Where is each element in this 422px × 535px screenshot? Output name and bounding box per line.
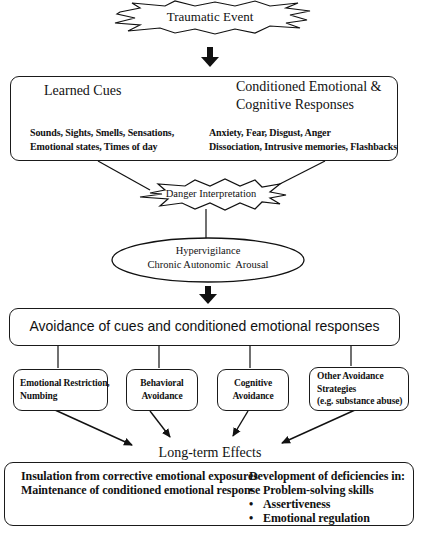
thick-arrow-2 [199,286,217,304]
danger-interpretation-label: Danger Interpretation [158,188,264,199]
learned-cues-examples-1: Sounds, Sights, Smells, Sensations, [30,127,174,138]
learned-cues-examples-2: Emotional states, Times of day [30,141,157,152]
effects-left-line2: Maintenance of conditioned emotional res… [21,483,260,498]
responses-title-2: Cognitive Responses [236,97,354,113]
strategy-1-line2: Numbing [20,391,57,401]
strategy-1-line1: Emotional Restriction, [20,378,110,388]
effects-left-line1: Insulation from corrective emotional exp… [21,469,258,484]
strategy-4-line3: (e.g. substance abuse) [317,396,402,406]
responses-examples-1: Anxiety, Fear, Disgust, Anger [209,127,331,138]
learned-cues-title: Learned Cues [44,83,121,99]
thick-arrow-1 [201,47,219,67]
strategy-box-behavioral-avoidance [126,369,198,411]
strategy-3-line2: Avoidance [217,391,289,401]
responses-title-1: Conditioned Emotional & [236,79,381,95]
long-term-effects-title: Long-term Effects [130,445,290,461]
responses-examples-2: Dissociation, Intrusive memories, Flashb… [209,141,397,152]
avoidance-label: Avoidance of cues and conditioned emotio… [9,318,400,334]
traumatic-event-label: Traumatic Event [150,9,270,25]
strategy-4-to-effects-arrow [282,410,355,443]
strategy-4-line2: Strategies [317,384,356,394]
strategy-3-to-effects-arrow [233,411,248,436]
deficiency-item: Problem-solving skills [247,483,374,497]
strategy-2-line2: Avoidance [126,391,198,401]
strategy-box-cognitive-avoidance [217,369,289,411]
funnel-left [98,161,150,190]
deficiencies-heading: Development of deficiencies in: [249,469,405,484]
strategy-4-line1: Other Avoidance [317,371,384,381]
strategy-1-to-effects-arrow [55,410,132,445]
chronic-arousal-label: Chronic Autonomic Arousal [126,259,290,270]
strategy-2-line1: Behavioral [126,378,198,388]
strategy-3-line1: Cognitive [217,378,289,388]
strategy-box-emotional-restriction [13,369,108,411]
hypervigilance-label: Hypervigilance [130,245,286,256]
deficiency-item: Assertiveness [247,497,374,511]
deficiencies-list: Problem-solving skills Assertiveness Emo… [247,483,374,525]
strategy-2-to-effects-arrow [150,411,170,437]
deficiency-item: Emotional regulation [247,511,374,525]
